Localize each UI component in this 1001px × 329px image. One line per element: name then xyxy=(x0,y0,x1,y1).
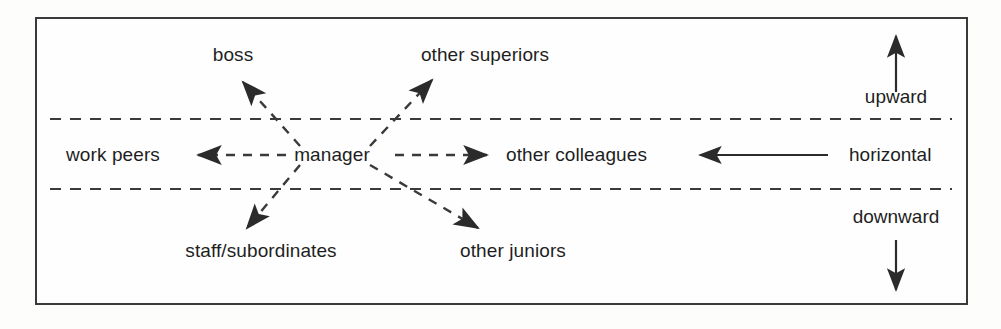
node-manager[interactable]: manager xyxy=(294,144,370,166)
edge-manager-to-staff-subordinates xyxy=(247,165,300,228)
edge-manager-to-boss xyxy=(243,82,300,146)
diagram-page: boss other superiors work peers manager … xyxy=(0,0,1001,329)
legend-label-horizontal: horizontal xyxy=(849,144,931,166)
edge-manager-to-other-superiors xyxy=(370,80,432,146)
edge-manager-to-other-juniors xyxy=(370,165,478,228)
legend-label-upward: upward xyxy=(865,86,927,108)
node-staff-subordinates[interactable]: staff/subordinates xyxy=(185,240,336,262)
legend-label-downward: downward xyxy=(853,206,940,228)
node-boss[interactable]: boss xyxy=(213,44,254,66)
node-other-superiors[interactable]: other superiors xyxy=(421,44,549,66)
node-other-colleagues[interactable]: other colleagues xyxy=(506,144,647,166)
node-work-peers[interactable]: work peers xyxy=(66,144,160,166)
node-other-juniors[interactable]: other juniors xyxy=(460,240,566,262)
